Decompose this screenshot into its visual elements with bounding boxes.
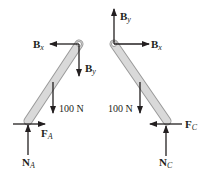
- svg-text:NC: NC: [159, 156, 173, 170]
- left-friction-arrow: FA: [13, 124, 53, 141]
- left-by-force-arrow: By: [79, 44, 96, 76]
- left-na-label: N: [22, 156, 30, 168]
- svg-text:By: By: [120, 10, 131, 24]
- left-weight-arrow: 100 N: [53, 82, 84, 114]
- right-free-body-diagram: By Bx 100 N FC NC: [108, 9, 198, 170]
- svg-text:Bx: Bx: [151, 38, 162, 52]
- svg-text:Bx: Bx: [33, 38, 44, 52]
- svg-text:NA: NA: [22, 156, 35, 170]
- svg-text:FC: FC: [185, 118, 198, 132]
- svg-text:FA: FA: [41, 127, 53, 141]
- right-by-force-arrow: By: [114, 9, 131, 44]
- right-nc-label: N: [159, 156, 167, 168]
- free-body-diagram-canvas: Bx By 100 N FA NA By: [0, 0, 205, 187]
- left-free-body-diagram: Bx By 100 N FA NA: [13, 38, 96, 170]
- right-normal-arrow: NC: [159, 126, 173, 170]
- left-weight-label: 100 N: [59, 103, 84, 114]
- left-normal-arrow: NA: [22, 125, 35, 170]
- right-weight-arrow: 100 N: [108, 82, 140, 114]
- svg-text:By: By: [85, 62, 96, 76]
- right-friction-arrow: FC: [150, 118, 198, 132]
- right-weight-label: 100 N: [108, 103, 133, 114]
